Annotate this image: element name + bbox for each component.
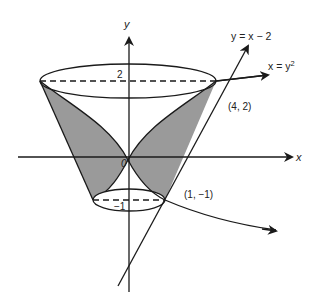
x-axis-label: x (295, 151, 302, 163)
point-label-1-neg1: (1, −1) (184, 189, 213, 200)
tick-label-neg1: −1 (114, 201, 126, 212)
top-ellipse (40, 64, 216, 98)
y-axis-label: y (123, 18, 131, 30)
line-equation-label: y = x − 2 (231, 30, 271, 42)
solid-of-revolution-diagram: y x y = x − 2 x = y2 2 −1 0 (4, 2) (1, −… (0, 0, 319, 307)
parabola-equation-label: x = y2 (268, 59, 295, 72)
tick-label-2: 2 (117, 69, 123, 80)
origin-label: 0 (121, 158, 127, 169)
point-label-4-2: (4, 2) (228, 101, 251, 112)
